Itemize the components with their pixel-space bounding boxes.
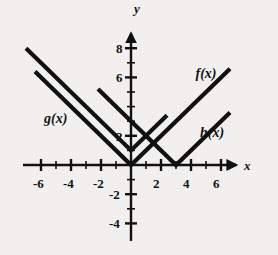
absolute-value-graph-figure: y x f(x) g(x) h(x) -6-4-2246862-2-4 (0, 0, 278, 255)
x-tick-label: 4 (183, 177, 190, 190)
x-axis-label: x (244, 159, 251, 172)
y-tick-label: 2 (116, 130, 123, 143)
x-tick-label: 6 (213, 177, 220, 190)
y-tick-label: 8 (116, 42, 123, 55)
y-tick-label: -2 (109, 188, 120, 201)
x-tick-label: -4 (63, 177, 74, 190)
y-axis-label: y (134, 2, 140, 15)
y-tick-label: 6 (116, 71, 123, 84)
x-tick-label: -6 (33, 177, 44, 190)
curve-label-f: f(x) (196, 67, 217, 81)
y-tick-label: -4 (109, 217, 120, 230)
x-tick-label: -2 (93, 177, 104, 190)
curve-label-g: g(x) (44, 112, 67, 126)
x-tick-label: 2 (153, 177, 160, 190)
curve-label-h: h(x) (200, 126, 224, 140)
coordinate-plane (0, 0, 278, 255)
